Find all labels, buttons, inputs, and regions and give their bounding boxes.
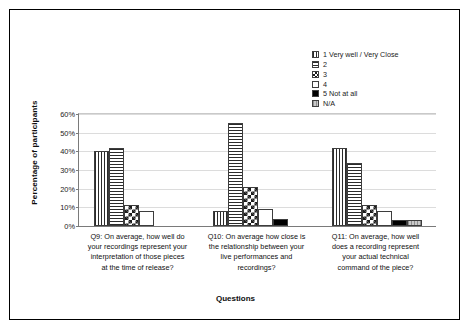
x-category-label: Q11: On average, how welldoes a recordin… xyxy=(308,232,443,273)
legend-swatch-series-6 xyxy=(312,100,319,107)
legend-swatch-series-2 xyxy=(312,61,319,68)
legend-swatch-series-1 xyxy=(312,51,319,58)
chart-figure: 1 Very well / Very Close 2 3 4 5 Not at … xyxy=(9,9,460,320)
x-category-label-line: recordings? xyxy=(189,263,324,273)
bar-series-4 xyxy=(139,211,154,226)
plot-area: 0%10%20%30%40%50%60% xyxy=(78,113,436,227)
bar-series-3 xyxy=(243,187,258,226)
legend-item-5: 5 Not at all xyxy=(312,89,452,98)
legend-label-series-2: 2 xyxy=(323,60,327,69)
legend-item-1: 1 Very well / Very Close xyxy=(312,50,452,59)
bar-series-2 xyxy=(347,163,362,226)
x-category-label: Q10: On average how close isthe relation… xyxy=(189,232,324,273)
x-category-label-line: Q11: On average, how well xyxy=(308,232,443,242)
legend-item-4: 4 xyxy=(312,79,452,88)
y-tick-label: 30% xyxy=(60,166,75,175)
legend-label-series-6: N/A xyxy=(323,99,335,108)
bar-series-3 xyxy=(362,205,377,226)
bar-series-2 xyxy=(109,148,124,226)
x-category-label-line: interpretation of those pieces xyxy=(70,252,205,262)
bar-series-5 xyxy=(392,220,407,226)
x-category-label-line: live performances and xyxy=(189,252,324,262)
legend-item-3: 3 xyxy=(312,70,452,79)
legend-swatch-series-4 xyxy=(312,81,319,88)
legend-swatch-series-3 xyxy=(312,71,319,78)
x-category-label-line: your recordings represent your xyxy=(70,242,205,252)
legend-label-series-4: 4 xyxy=(323,80,327,89)
x-category-label: Q9: On average, how well doyour recordin… xyxy=(70,232,205,273)
bar-group xyxy=(79,114,198,226)
legend-swatch-series-5 xyxy=(312,90,319,97)
bar-series-1 xyxy=(332,148,347,226)
x-category-label-line: Q9: On average, how well do xyxy=(70,232,205,242)
legend-label-series-5: 5 Not at all xyxy=(323,89,357,98)
bar-series-3 xyxy=(124,205,139,226)
bar-series-4 xyxy=(377,211,392,226)
x-category-label-line: your actual technical xyxy=(308,252,443,262)
bar-series-4 xyxy=(258,209,273,226)
x-category-label-line: Q10: On average how close is xyxy=(189,232,324,242)
x-category-label-line: does a recording represent xyxy=(308,242,443,252)
bar-group xyxy=(198,114,317,226)
bar-series-1 xyxy=(94,151,109,226)
x-category-label-line: command of the piece? xyxy=(308,263,443,273)
y-tick-label: 40% xyxy=(60,147,75,156)
bar-series-1 xyxy=(213,211,228,226)
x-category-label-line: at the time of release? xyxy=(70,263,205,273)
y-tick-label: 20% xyxy=(60,184,75,193)
legend-item-2: 2 xyxy=(312,60,452,69)
legend-label-series-1: 1 Very well / Very Close xyxy=(323,50,399,59)
x-axis-title: Questions xyxy=(10,294,461,303)
bar-series-5 xyxy=(273,219,288,226)
y-tick-label: 50% xyxy=(60,128,75,137)
y-tick-label: 60% xyxy=(60,110,75,119)
bar-group xyxy=(317,114,436,226)
x-category-label-line: the relationship between your xyxy=(189,242,324,252)
legend-item-6: N/A xyxy=(312,99,452,108)
legend-label-series-3: 3 xyxy=(323,70,327,79)
bar-series-2 xyxy=(228,123,243,226)
y-tick-label: 0% xyxy=(64,222,75,231)
y-tick-mark xyxy=(76,226,79,227)
y-axis-title: Percentage of participants xyxy=(30,93,39,213)
y-tick-label: 10% xyxy=(60,203,75,212)
bar-series-6 xyxy=(407,220,422,226)
chart-legend: 1 Very well / Very Close 2 3 4 5 Not at … xyxy=(312,50,452,109)
